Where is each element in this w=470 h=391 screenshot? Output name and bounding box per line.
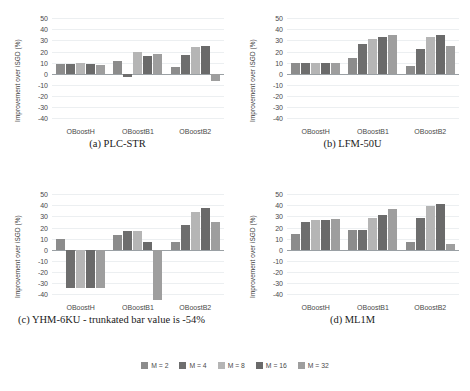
bar-set xyxy=(402,16,459,124)
bar-rect xyxy=(436,35,445,74)
bar-rect xyxy=(331,63,340,74)
bar-rect xyxy=(181,225,190,249)
bar xyxy=(143,192,152,300)
bar xyxy=(446,192,455,300)
plot-area: 50403020100-10-20-30-40OBoostHOBoostB1OB… xyxy=(52,16,224,124)
bar-group: OBoostB1 xyxy=(344,16,401,124)
panel-a: Improvement over iSGD (%)50403020100-10-… xyxy=(0,0,235,176)
y-axis-tick-label: 50 xyxy=(275,15,283,22)
bar xyxy=(378,192,387,300)
legend-item: M = 4 xyxy=(179,362,206,369)
bar-set xyxy=(109,192,166,300)
y-axis-tick-label: -40 xyxy=(38,291,48,298)
bar xyxy=(171,192,180,300)
x-axis-tick-label: OBoostB1 xyxy=(357,304,389,311)
bar-rect xyxy=(348,58,357,74)
y-axis-tick-label: -30 xyxy=(38,104,48,111)
bar xyxy=(368,16,377,124)
bar-rect xyxy=(436,204,445,250)
bar-group: OBoostH xyxy=(287,192,344,300)
x-axis-tick-label: OBoostH xyxy=(66,304,94,311)
bar xyxy=(133,16,142,124)
panel-caption: (d) ML1M xyxy=(235,314,470,326)
x-axis-tick-label: OBoostB1 xyxy=(122,304,154,311)
bar xyxy=(311,192,320,300)
bar xyxy=(96,192,105,300)
legend-swatch-icon xyxy=(141,362,148,369)
bar-rect xyxy=(133,231,142,250)
bar xyxy=(368,192,377,300)
panel-grid: Improvement over iSGD (%)50403020100-10-… xyxy=(0,0,470,352)
x-axis-tick-label: OBoostB2 xyxy=(179,128,211,135)
bar xyxy=(201,192,210,300)
bar-rect xyxy=(426,37,435,74)
bar-rect xyxy=(368,39,377,74)
bar-rect xyxy=(388,35,397,74)
bar-rect xyxy=(96,250,105,288)
bar-rect xyxy=(153,250,162,300)
bar-rect xyxy=(378,37,387,74)
bar xyxy=(388,192,397,300)
y-axis-tick-label: -20 xyxy=(38,93,48,100)
bar-rect xyxy=(388,209,397,250)
bar-rect xyxy=(86,250,95,288)
bar xyxy=(113,16,122,124)
bar xyxy=(378,16,387,124)
bar-rect xyxy=(406,242,415,250)
bar xyxy=(76,16,85,124)
bar xyxy=(123,16,132,124)
y-axis-tick-label: 0 xyxy=(279,246,283,253)
bar-rect xyxy=(311,63,320,74)
bar-groups: OBoostHOBoostB1OBoostB2 xyxy=(52,192,224,300)
bar xyxy=(211,16,220,124)
bar xyxy=(153,192,162,300)
y-axis-tick-label: -40 xyxy=(273,291,283,298)
legend-swatch-icon xyxy=(179,362,186,369)
bar xyxy=(321,192,330,300)
bar-rect xyxy=(181,55,190,74)
x-axis-tick-label: OBoostB1 xyxy=(357,128,389,135)
legend-swatch-icon xyxy=(298,362,305,369)
panel-caption: (b) LFM-50U xyxy=(235,138,470,150)
bar-set xyxy=(109,16,166,124)
x-axis-tick-label: OBoostB2 xyxy=(414,128,446,135)
bar-rect xyxy=(123,74,132,77)
bar-group: OBoostB1 xyxy=(344,192,401,300)
legend-label: M = 2 xyxy=(151,362,168,369)
bar xyxy=(348,16,357,124)
y-axis-tick-label: 30 xyxy=(275,37,283,44)
bar xyxy=(191,192,200,300)
bar xyxy=(56,192,65,300)
x-axis-tick-label: OBoostH xyxy=(301,128,329,135)
y-axis-tick-label: -10 xyxy=(38,82,48,89)
y-axis-label: Improvement over iSGD (%) xyxy=(249,2,261,122)
y-axis-tick-label: 0 xyxy=(44,246,48,253)
bar-rect xyxy=(201,208,210,250)
bar xyxy=(311,16,320,124)
bar-groups: OBoostHOBoostB1OBoostB2 xyxy=(287,16,459,124)
y-axis-tick-label: 20 xyxy=(275,224,283,231)
bar-rect xyxy=(76,63,85,74)
y-axis-tick-label: -40 xyxy=(38,115,48,122)
bar-rect xyxy=(211,222,220,250)
bar xyxy=(416,192,425,300)
bar-set xyxy=(402,192,459,300)
legend-item: M = 16 xyxy=(256,362,287,369)
bar-rect xyxy=(301,63,310,74)
y-axis-tick-label: 10 xyxy=(275,59,283,66)
y-axis-tick-label: 20 xyxy=(40,48,48,55)
bar-rect xyxy=(171,67,180,74)
x-axis-tick-label: OBoostH xyxy=(66,128,94,135)
bar xyxy=(76,192,85,300)
bar xyxy=(416,16,425,124)
bar-rect xyxy=(133,52,142,74)
y-axis-tick-label: 10 xyxy=(40,235,48,242)
bar xyxy=(301,192,310,300)
bar-group: OBoostH xyxy=(52,192,109,300)
y-axis-tick-label: -30 xyxy=(273,280,283,287)
bar xyxy=(123,192,132,300)
y-axis-tick-label: 30 xyxy=(275,213,283,220)
y-axis-tick-label: -20 xyxy=(273,93,283,100)
bar-set xyxy=(287,16,344,124)
bar-rect xyxy=(191,47,200,74)
